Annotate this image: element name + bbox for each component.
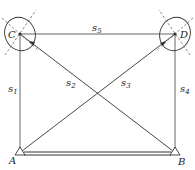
- point-label-b: B: [177, 156, 185, 167]
- edge-label-s3: s3: [121, 77, 131, 90]
- edge-label-s5: s5: [92, 22, 102, 35]
- point-label-d: D: [179, 29, 188, 40]
- station-a-triangle-icon: [15, 147, 25, 155]
- edge-label-s4: s4: [180, 83, 190, 96]
- control-network-diagram: C D A B s5 s1 s2 s3 s4: [0, 0, 195, 170]
- station-b-triangle-icon: [170, 147, 180, 155]
- point-label-c: C: [8, 29, 16, 40]
- edge-label-s1: s1: [8, 83, 18, 96]
- edge-s2: [20, 34, 173, 151]
- point-label-a: A: [8, 155, 16, 166]
- edge-label-s2: s2: [66, 77, 76, 90]
- edge-s3: [22, 34, 175, 151]
